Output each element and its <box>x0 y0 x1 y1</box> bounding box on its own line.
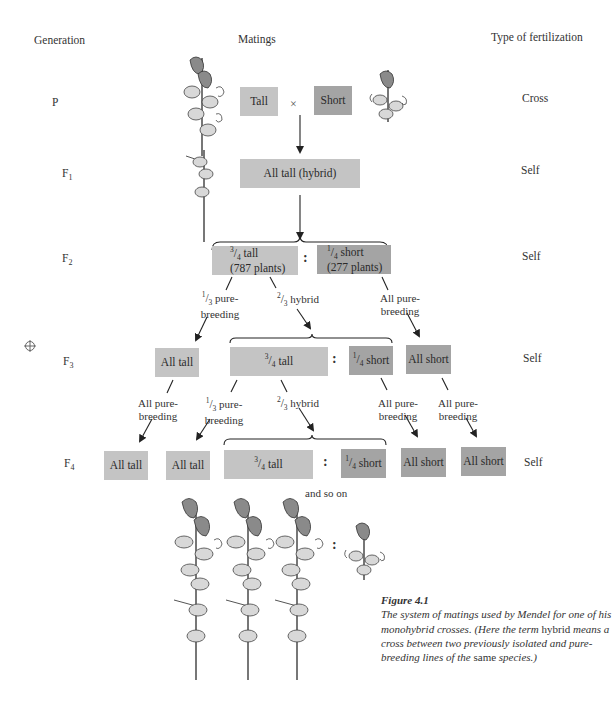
f4-all-short-box-1: All short <box>401 448 446 477</box>
f3-pure-breeding-label: 1/3 pure- breeding <box>198 397 250 426</box>
f3-all-short-box: All short <box>406 345 451 374</box>
f4-short-box: 1/4 short <box>341 449 386 478</box>
f3-hybrid-label: 2/3 hybrid <box>268 396 328 413</box>
f4-tall-box: 3/4 tall <box>224 450 313 479</box>
f3-all-pure-breeding-label-c: All pure- breeding <box>432 397 484 422</box>
f1-hybrid-box: All tall (hybrid) <box>240 159 360 188</box>
f2-short-box: 1/4 short (277 plants) <box>317 245 391 274</box>
f3-ratio-separator: : <box>332 351 337 367</box>
p-short-box: Short <box>314 86 352 115</box>
p-tall-box: Tall <box>240 87 278 116</box>
figure-title: Figure 4.1 <box>381 593 613 607</box>
f3-all-tall-box: All tall <box>155 348 199 377</box>
f4-ratio-separator: : <box>323 454 328 470</box>
f2-ratio-separator: : <box>303 250 308 266</box>
f2-pure-breeding-label: 1/3 pure- breeding <box>190 291 250 320</box>
cross-symbol: × <box>290 97 297 112</box>
figure-caption: Figure 4.1 The system of matings used by… <box>381 593 613 664</box>
f4-all-tall-box-2: All tall <box>166 451 210 480</box>
f3-tall-box: 3/4 tall <box>230 347 328 376</box>
f4-all-short-box-2: All short <box>461 447 506 476</box>
bottom-ratio-separator: : <box>332 537 337 553</box>
f4-all-tall-box-1: All tall <box>104 451 148 480</box>
f3-all-pure-breeding-label-b: All pure- breeding <box>372 397 424 422</box>
f2-tall-box: 3/4 tall (787 plants) <box>212 246 298 275</box>
continuation-text: and so on <box>305 487 347 499</box>
f3-short-box: 1/4 short <box>349 346 393 375</box>
f2-hybrid-label: 2/3 hybrid <box>268 292 328 309</box>
f2-all-pure-breeding-label: All pure- breeding <box>370 292 430 317</box>
figure-description: The system of matings used by Mendel for… <box>381 607 613 664</box>
f3-all-pure-breeding-label-a: All pure- breeding <box>132 397 184 422</box>
